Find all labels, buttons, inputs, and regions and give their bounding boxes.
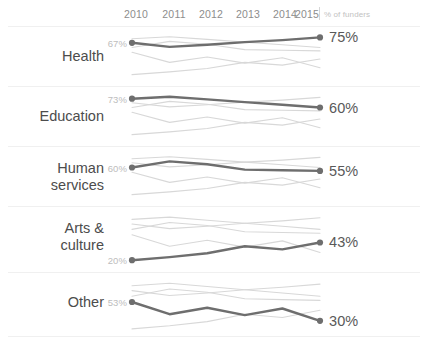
sparkline-svg — [112, 26, 428, 86]
sparkline-svg — [112, 146, 428, 206]
start-value-label: 67% — [108, 37, 127, 48]
start-point-marker — [129, 96, 135, 102]
sparkline-panel: 20%43% — [112, 206, 428, 272]
start-value-label: 73% — [108, 93, 127, 104]
row-label-education: Education — [0, 108, 104, 125]
start-value-label: 20% — [108, 255, 127, 266]
end-point-marker — [317, 318, 323, 324]
row-label-arts-culture: Arts & culture — [0, 220, 104, 254]
row-label-human-services: Human services — [0, 160, 104, 194]
sparkline-panel: 67%75% — [112, 26, 428, 86]
year-tick-2015: 2015 — [295, 8, 319, 20]
start-value-label: 53% — [108, 297, 127, 308]
sparkline-panel: 60%55% — [112, 146, 428, 206]
row-separator — [8, 336, 420, 337]
end-point-marker — [317, 168, 323, 174]
end-value-label: 60% — [329, 100, 358, 116]
context-line-arts-culture — [132, 310, 320, 329]
end-point-marker — [317, 239, 323, 245]
end-value-label: 30% — [329, 313, 358, 329]
year-axis: 2010 2011 2012 2013 2014 2015 % of funde… — [0, 0, 428, 26]
context-line-arts-culture — [132, 119, 320, 135]
start-point-marker — [129, 40, 135, 46]
context-line-arts-culture — [132, 59, 320, 75]
start-value-label: 60% — [108, 162, 127, 173]
chart-bottom-rule — [0, 336, 428, 337]
start-point-marker — [129, 164, 135, 170]
context-line-arts-culture — [132, 179, 320, 195]
end-value-label: 55% — [329, 163, 358, 179]
sparkline-svg — [112, 86, 428, 146]
chart-row: Arts & culture20%43% — [0, 206, 428, 272]
year-tick-2012: 2012 — [199, 8, 223, 20]
row-label-other: Other — [0, 294, 104, 311]
highlight-line — [132, 243, 320, 261]
chart-row: Education73%60% — [0, 86, 428, 146]
start-point-marker — [129, 257, 135, 263]
chart-row: Human services60%55% — [0, 146, 428, 206]
axis-note-percent-of-funders: % of funders — [324, 10, 370, 19]
end-point-marker — [317, 34, 323, 40]
sparkline-svg — [112, 272, 428, 341]
year-tick-2011: 2011 — [162, 8, 185, 20]
axis-divider — [319, 7, 320, 20]
sparkline-small-multiples-chart: 2010 2011 2012 2013 2014 2015 % of funde… — [0, 0, 428, 341]
end-value-label: 43% — [329, 234, 358, 250]
year-tick-2010: 2010 — [124, 8, 148, 20]
sparkline-svg — [112, 206, 428, 272]
year-tick-2013: 2013 — [236, 8, 260, 20]
end-value-label: 75% — [329, 29, 358, 45]
start-point-marker — [129, 299, 135, 305]
end-point-marker — [317, 104, 323, 110]
chart-row: Health67%75% — [0, 26, 428, 86]
row-label-health: Health — [0, 48, 104, 65]
sparkline-panel: 53%30% — [112, 272, 428, 341]
chart-row: Other53%30% — [0, 272, 428, 341]
year-tick-2014: 2014 — [273, 8, 297, 20]
sparkline-panel: 73%60% — [112, 86, 428, 146]
